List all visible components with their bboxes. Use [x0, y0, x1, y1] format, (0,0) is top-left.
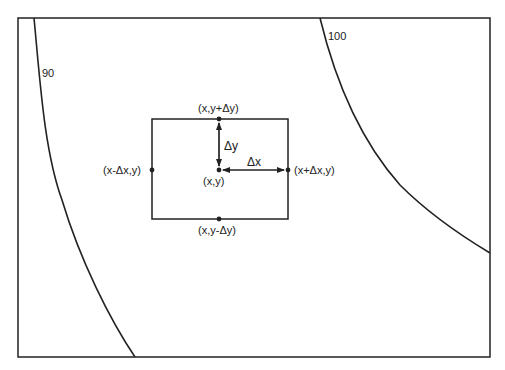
point-top: [217, 117, 222, 122]
point-left: [150, 168, 155, 173]
delta-x-label: Δx: [247, 155, 261, 169]
outer-frame: [18, 18, 490, 357]
diagram-canvas: 90 100 Δy Δx (x,y+Δy) (x,y-Δy) (x-Δx,y) …: [0, 0, 505, 370]
contour-label-90: 90: [42, 67, 54, 79]
point-center: [217, 168, 222, 173]
label-left-point: (x-Δx,y): [103, 164, 141, 176]
label-right-point: (x+Δx,y): [294, 164, 335, 176]
contour-line-100: [320, 18, 490, 253]
contour-label-100: 100: [328, 30, 346, 42]
label-bottom-point: (x,y-Δy): [198, 224, 236, 236]
delta-y-label: Δy: [224, 139, 238, 153]
label-center-point: (x,y): [203, 175, 224, 187]
label-top-point: (x,y+Δy): [198, 102, 239, 114]
point-bottom: [217, 217, 222, 222]
point-right: [286, 168, 291, 173]
